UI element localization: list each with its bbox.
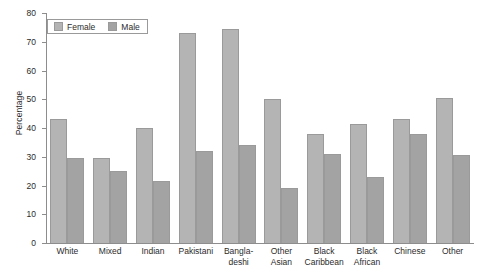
bar-group <box>174 13 217 243</box>
x-tick-label: White <box>46 246 89 267</box>
x-tick-label: Pakistani <box>174 246 217 267</box>
bar-female <box>136 128 153 243</box>
x-tick-label: Indian <box>132 246 175 267</box>
x-tick-label: Black Caribbean <box>303 246 346 267</box>
bar-chart: Percentage 01020304050607080 WhiteMixedI… <box>0 0 487 280</box>
y-tick-label: 40 <box>27 123 36 133</box>
bar-male <box>239 145 256 243</box>
x-tick-label: Bangla- deshi <box>217 246 260 267</box>
bar-group <box>132 13 175 243</box>
x-tick-label: Black African <box>346 246 389 267</box>
legend-swatch-male <box>108 22 117 31</box>
bar-group <box>303 13 346 243</box>
legend-item-female: Female <box>54 22 95 32</box>
y-tick-label: 0 <box>31 238 36 248</box>
y-axis-label: Percentage <box>14 63 24 163</box>
x-axis-tick-labels: WhiteMixedIndianPakistaniBangla- deshiOt… <box>46 246 474 267</box>
bar-female <box>436 98 453 243</box>
bar-female <box>264 99 281 243</box>
bar-male <box>281 188 298 243</box>
bar-male <box>367 177 384 243</box>
bar-groups <box>46 13 474 243</box>
bar-male <box>67 158 84 243</box>
bar-group <box>431 13 474 243</box>
bar-group <box>46 13 89 243</box>
y-tick-label: 80 <box>27 8 36 18</box>
x-tick-label: Other Asian <box>260 246 303 267</box>
bar-male <box>324 154 341 243</box>
bar-group <box>346 13 389 243</box>
x-axis-line <box>46 243 474 244</box>
legend-label-male: Male <box>121 22 139 32</box>
bar-female <box>179 33 196 243</box>
bar-group <box>260 13 303 243</box>
x-tick-label: Chinese <box>388 246 431 267</box>
x-tick-label: Other <box>431 246 474 267</box>
legend-label-female: Female <box>67 22 95 32</box>
bar-female <box>350 124 367 243</box>
y-tick-label: 50 <box>27 94 36 104</box>
plot-area: 01020304050607080 <box>46 13 474 243</box>
bar-female <box>50 119 67 243</box>
legend-swatch-female <box>54 22 63 31</box>
y-tick-label: 70 <box>27 37 36 47</box>
bar-female <box>222 29 239 243</box>
y-tick-label: 30 <box>27 152 36 162</box>
chart-legend: Female Male <box>47 19 148 34</box>
bar-female <box>93 158 110 243</box>
bar-group <box>388 13 431 243</box>
bar-male <box>153 181 170 243</box>
y-tick: 0 <box>42 243 46 244</box>
bar-group <box>217 13 260 243</box>
y-tick-label: 10 <box>27 209 36 219</box>
x-tick-label: Mixed <box>89 246 132 267</box>
y-tick-label: 20 <box>27 181 36 191</box>
bar-male <box>453 155 470 243</box>
bar-female <box>393 119 410 243</box>
bar-group <box>89 13 132 243</box>
y-tick-label: 60 <box>27 66 36 76</box>
legend-item-male: Male <box>108 22 139 32</box>
bar-male <box>196 151 213 243</box>
bar-female <box>307 134 324 243</box>
bar-male <box>110 171 127 243</box>
bar-male <box>410 134 427 243</box>
